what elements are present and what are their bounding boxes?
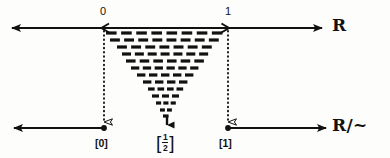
tick-label-one: 1 bbox=[225, 6, 231, 17]
quotient-point-one bbox=[225, 125, 231, 131]
wedge-dash bbox=[135, 52, 144, 55]
wedge-dash bbox=[143, 80, 151, 83]
wedge-dash bbox=[110, 38, 120, 41]
wedge-dash bbox=[212, 31, 223, 34]
wedge-dash bbox=[158, 87, 165, 90]
real-line-label: R bbox=[332, 17, 346, 34]
wedge-dash bbox=[136, 31, 147, 34]
wedge-dash bbox=[148, 52, 157, 55]
wedge-dash bbox=[167, 108, 172, 111]
wedge-dash bbox=[106, 31, 117, 34]
wedge-dash bbox=[173, 52, 182, 55]
wedge-dash bbox=[163, 101, 168, 104]
wedge-dash bbox=[131, 66, 139, 69]
wedge-dash bbox=[117, 45, 127, 48]
wedge-dash bbox=[185, 73, 193, 76]
fraction-one-half: 1 2 bbox=[161, 133, 169, 152]
real-line-axis bbox=[12, 24, 322, 33]
wedge-dash bbox=[167, 59, 177, 62]
wedge-dash bbox=[190, 66, 198, 69]
wedge-dash bbox=[167, 66, 175, 69]
wedge-dash bbox=[171, 101, 176, 104]
wedge-dash bbox=[161, 73, 169, 76]
wedge-dash bbox=[155, 80, 163, 83]
projection-arrows bbox=[104, 31, 228, 125]
wedge-dash bbox=[145, 45, 155, 48]
wedge-dash bbox=[163, 114, 169, 117]
wedge-dash bbox=[182, 31, 193, 34]
wedge-dash bbox=[177, 87, 184, 90]
wedge-dash bbox=[167, 80, 175, 83]
fraction-group: [ 1 2 ] bbox=[156, 133, 175, 152]
wedge-dash bbox=[153, 59, 163, 62]
wedge-dash bbox=[138, 38, 148, 41]
wedge-dash bbox=[151, 31, 162, 34]
wedge-dash bbox=[148, 87, 155, 90]
wedge-dash bbox=[122, 52, 131, 55]
wedge-dash bbox=[126, 59, 136, 62]
wedge-dash bbox=[161, 52, 170, 55]
wedge-dash bbox=[162, 94, 169, 97]
wedge-dash bbox=[174, 45, 184, 48]
class-label-zero: [0] bbox=[95, 138, 108, 149]
wedge-dash bbox=[195, 38, 205, 41]
class-label-one: [1] bbox=[219, 138, 232, 149]
quotient-line-axis bbox=[14, 125, 326, 131]
quotient-point-zero bbox=[101, 125, 107, 131]
wedge-dash bbox=[159, 45, 169, 48]
wedge-dash bbox=[167, 87, 174, 90]
wedge-dash bbox=[179, 80, 187, 83]
figure-canvas: 0 1 R R/~ [0] [1] [ 1 2 ] bbox=[0, 0, 390, 158]
wedge-dash bbox=[149, 73, 157, 76]
wedge-dash bbox=[167, 38, 177, 41]
wedge-dash bbox=[173, 73, 181, 76]
wedge-dash bbox=[181, 38, 191, 41]
quotient-line-label: R/~ bbox=[332, 117, 367, 134]
wedge-dash bbox=[188, 45, 198, 48]
wedge-dash bbox=[199, 52, 208, 55]
wedge-dash bbox=[137, 73, 145, 76]
wedge-dash bbox=[186, 52, 195, 55]
wedge-dash bbox=[143, 66, 151, 69]
wedge-dash bbox=[172, 94, 179, 97]
wedge-dash bbox=[155, 66, 163, 69]
wedge-dash bbox=[160, 108, 165, 111]
wedge-dash bbox=[124, 38, 134, 41]
wedge-dash bbox=[156, 101, 161, 104]
wedge-dash bbox=[152, 94, 159, 97]
interval-collapse-wedge bbox=[106, 31, 222, 117]
wedge-dash bbox=[140, 59, 150, 62]
wedge-dash bbox=[152, 38, 162, 41]
wedge-dash bbox=[181, 59, 191, 62]
wedge-dash bbox=[121, 31, 132, 34]
class-label-half: [ 1 2 ] bbox=[156, 133, 175, 152]
fraction-denominator: 2 bbox=[163, 143, 168, 152]
wedge-dash bbox=[131, 45, 141, 48]
wedge-dash bbox=[209, 38, 219, 41]
fraction-numerator: 1 bbox=[163, 133, 168, 142]
wedge-dash bbox=[167, 31, 178, 34]
wedge-dash bbox=[202, 45, 212, 48]
wedge-dash bbox=[197, 31, 208, 34]
wedge-dash bbox=[194, 59, 204, 62]
tick-label-zero: 0 bbox=[100, 6, 106, 17]
bracket-close-icon: ] bbox=[169, 135, 174, 151]
wedge-dash bbox=[178, 66, 186, 69]
